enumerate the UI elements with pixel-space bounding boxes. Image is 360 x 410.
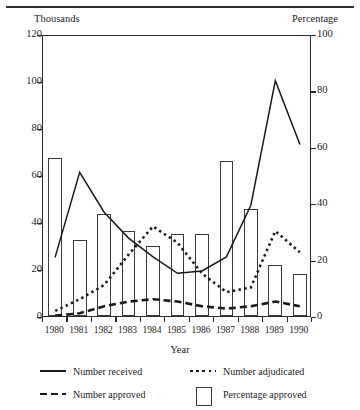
y2-axis-tick-mark: [311, 148, 316, 149]
y2-axis-tick-mark: [311, 261, 316, 262]
legend-label: Number received: [73, 366, 142, 377]
legend-label: Percentage approved: [223, 389, 307, 400]
line-number-approved: [55, 299, 300, 315]
x-axis-tick-mark: [164, 317, 165, 322]
y2-axis-tick-label: 100: [317, 29, 343, 40]
x-axis-tick-mark: [238, 317, 239, 322]
x-axis-tick-mark: [213, 317, 214, 322]
x-axis-tick-mark: [287, 317, 288, 322]
right-axis-unit-label: Percentage: [292, 13, 338, 24]
y2-axis-tick-label: 20: [317, 255, 343, 266]
x-axis-tick-mark: [189, 317, 190, 322]
x-axis-tick-mark: [42, 317, 43, 322]
solid-line-icon: [40, 364, 66, 378]
left-axis-unit-label: Thousands: [34, 13, 80, 24]
legend-item-number-adjudicated: Number adjudicated: [190, 364, 340, 378]
chart-figure: Thousands Percentage 020406080100120 020…: [0, 0, 360, 410]
dashed-line-icon: [40, 387, 66, 401]
x-axis-tick-mark: [140, 317, 141, 322]
y2-axis-tick-label: 80: [317, 85, 343, 96]
dotted-line-icon: [190, 364, 216, 378]
chart-legend: Number received Number adjudicated Numbe…: [40, 364, 340, 401]
y2-axis-tick-label: 40: [317, 198, 343, 209]
legend-item-number-approved: Number approved: [40, 387, 190, 401]
legend-label: Number approved: [73, 389, 145, 400]
open-bar-icon: [190, 387, 216, 401]
plot-inner: [43, 36, 310, 316]
y2-axis-tick-mark: [311, 35, 316, 36]
legend-label: Number adjudicated: [223, 366, 304, 377]
y2-axis-tick-mark: [311, 91, 316, 92]
y2-axis-tick-mark: [311, 204, 316, 205]
legend-item-number-received: Number received: [40, 364, 190, 378]
top-rule-divider: [6, 6, 354, 8]
line-series-layer: [43, 36, 310, 316]
y2-axis-tick-label: 0: [317, 311, 343, 322]
y2-axis-tick-label: 60: [317, 142, 343, 153]
x-axis-label-1990: 1990: [283, 325, 315, 335]
legend-item-percentage-approved: Percentage approved: [190, 387, 340, 401]
x-axis-title: Year: [0, 344, 360, 355]
plot-area: [42, 35, 311, 317]
x-axis-tick-mark: [311, 317, 312, 322]
x-axis-tick-mark: [115, 317, 116, 322]
line-number-adjudicated: [55, 226, 300, 311]
x-axis-tick-mark: [66, 317, 67, 322]
x-axis-tick-mark: [262, 317, 263, 322]
x-axis-tick-mark: [91, 317, 92, 322]
